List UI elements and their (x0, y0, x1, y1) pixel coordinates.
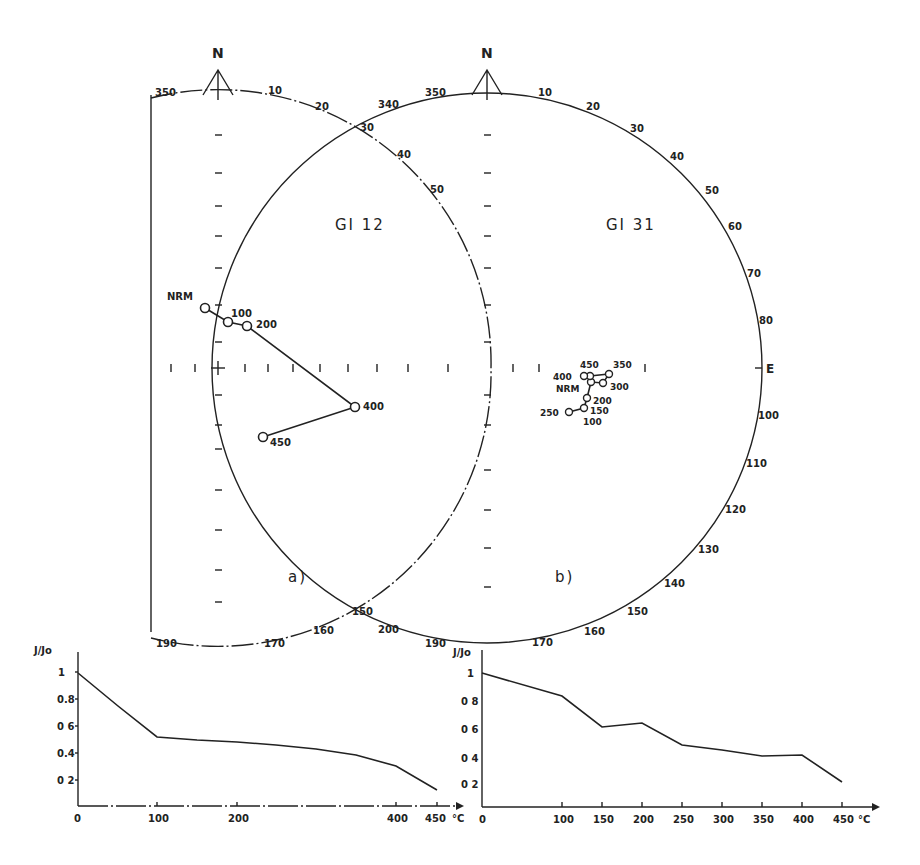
stereonet-b: N 350 340 10 20 30 40 50 60 70 80 E 100 … (212, 45, 779, 649)
point-label: 100 (231, 308, 252, 319)
demag-path-a (205, 308, 355, 437)
point-label: 100 (583, 417, 602, 427)
paleomagnetic-figure: N 350 10 20 30 40 50 150 160 170 190 G (0, 0, 920, 865)
azimuth-label: 150 (627, 606, 648, 617)
north-arrow-icon (472, 70, 502, 100)
azimuth-label: 120 (725, 504, 746, 515)
y-tick: 0 2 (461, 779, 478, 790)
point-label: NRM (167, 291, 193, 302)
x-tick: 200 (633, 814, 654, 825)
point-label: NRM (556, 384, 579, 394)
x-tick: 450 (833, 814, 854, 825)
x-tick: 350 (753, 814, 774, 825)
y-tick: 0.4 (57, 748, 75, 759)
point-label: 300 (610, 382, 629, 392)
point-label: 400 (363, 401, 384, 412)
azimuth-label: 70 (747, 268, 761, 279)
azimuth-label: 40 (670, 151, 684, 162)
azimuth-label: 190 (425, 638, 446, 649)
x-tick: 150 (593, 814, 614, 825)
sample-label-a: GI 12 (335, 216, 385, 234)
north-arrow-icon (203, 70, 233, 100)
chart-b-ylabel: J/Jo (452, 647, 471, 658)
panel-label-b: b) (555, 568, 574, 586)
azimuth-label: 110 (746, 458, 767, 469)
azimuth-label: 340 (378, 99, 399, 110)
point-label: 200 (593, 396, 612, 406)
panel-label-a: a) (288, 568, 307, 586)
azimuth-label: 100 (758, 410, 779, 421)
chart-b-xunit: °C (858, 814, 870, 825)
east-label: E (766, 362, 774, 376)
y-tick: 0.8 (57, 694, 75, 705)
azimuth-label: 140 (664, 578, 685, 589)
chart-a-ylabel: J/Jo (33, 645, 52, 656)
azimuth-label: 60 (728, 221, 742, 232)
x-tick: 100 (148, 813, 169, 824)
y-tick: 0 6 (461, 724, 478, 735)
azimuth-label: 200 (378, 624, 399, 635)
y-tick: 0 6 (57, 721, 74, 732)
azimuth-label: 170 (532, 637, 553, 648)
azimuth-label: 150 (352, 606, 373, 617)
x-tick: 0 (479, 814, 486, 825)
azimuth-label: 80 (759, 315, 773, 326)
chart-a-xunit: °C (452, 813, 464, 824)
point-label: 450 (270, 437, 291, 448)
x-tick: 100 (553, 814, 574, 825)
north-label-b: N (481, 45, 493, 61)
y-tick: 0 4 (461, 753, 478, 764)
azimuth-label: 130 (698, 544, 719, 555)
azimuth-label: 10 (268, 85, 282, 96)
point-label: 400 (553, 372, 572, 382)
azimuth-label: 170 (264, 638, 285, 649)
azimuth-label: 30 (630, 123, 644, 134)
y-tick: 1 (467, 668, 474, 679)
azimuth-label: 190 (156, 638, 177, 649)
azimuth-label: 10 (538, 87, 552, 98)
azimuth-label: 40 (397, 149, 411, 160)
point-label: 250 (540, 408, 559, 418)
point-label: 450 (580, 360, 599, 370)
stereonet-a-primitive (151, 90, 491, 647)
demag-points-a (201, 304, 360, 442)
x-tick: 450 (425, 813, 446, 824)
y-tick: 0 8 (461, 696, 478, 707)
stereonet-b-primitive (212, 93, 762, 643)
azimuth-label: 350 (155, 87, 176, 98)
chart-b-curve (482, 673, 842, 782)
stereonet-a: N 350 10 20 30 40 50 150 160 170 190 G (151, 45, 491, 649)
x-tick: 0 (74, 813, 81, 824)
azimuth-label: 20 (586, 101, 600, 112)
azimuth-label: 50 (705, 185, 719, 196)
north-label-a: N (212, 45, 224, 61)
x-tick: 400 (793, 814, 814, 825)
x-tick: 300 (713, 814, 734, 825)
x-tick: 250 (673, 814, 694, 825)
y-tick: 0 2 (57, 775, 74, 786)
sample-label-b: GI 31 (606, 216, 656, 234)
arrow-icon (456, 802, 464, 810)
x-tick: 200 (228, 813, 249, 824)
y-tick: 1 (58, 667, 65, 678)
azimuth-label: 160 (584, 626, 605, 637)
point-label: 200 (256, 319, 277, 330)
chart-b: J/Jo 1 0 8 0 6 0 4 0 2 0 100 150 200 250… (452, 647, 880, 825)
azimuth-label: 350 (425, 87, 446, 98)
arrow-icon (872, 803, 880, 811)
azimuth-label: 50 (430, 184, 444, 195)
chart-a-curve (78, 673, 437, 790)
chart-a: J/Jo 1 0.8 0 6 0.4 0 2 0 100 200 400 450… (33, 645, 464, 824)
azimuth-label: 160 (313, 625, 334, 636)
x-tick: 400 (387, 813, 408, 824)
point-label: 350 (613, 360, 632, 370)
azimuth-label: 20 (315, 101, 329, 112)
point-label: 150 (590, 406, 609, 416)
